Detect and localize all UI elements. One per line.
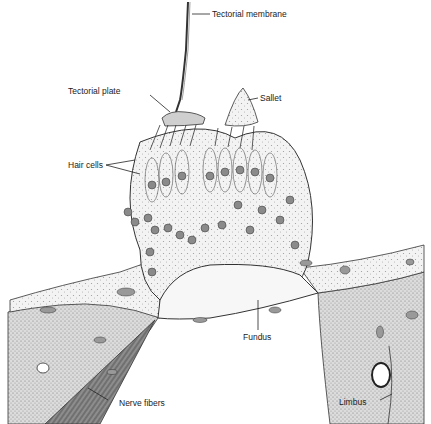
figure-canvas: Tectorial membrane Tectorial plate Salle… bbox=[0, 0, 431, 424]
label-sallet: Sallet bbox=[260, 94, 281, 103]
label-nerve-fibers: Nerve fibers bbox=[119, 399, 165, 408]
anatomy-illustration bbox=[0, 0, 431, 424]
label-hair-cells: Hair cells bbox=[68, 161, 103, 170]
limbus-vacuole bbox=[372, 363, 390, 387]
tectorial-plate-shape bbox=[162, 112, 205, 126]
label-limbus: Limbus bbox=[339, 398, 366, 407]
label-fundus: Fundus bbox=[243, 333, 271, 342]
sallet-shape bbox=[225, 88, 258, 126]
label-tectorial-membrane: Tectorial membrane bbox=[212, 10, 287, 19]
label-tectorial-plate: Tectorial plate bbox=[68, 87, 120, 96]
left-vacuole bbox=[37, 363, 49, 373]
tectorial-membrane-strand bbox=[176, 2, 188, 112]
right-tissue bbox=[318, 272, 424, 424]
